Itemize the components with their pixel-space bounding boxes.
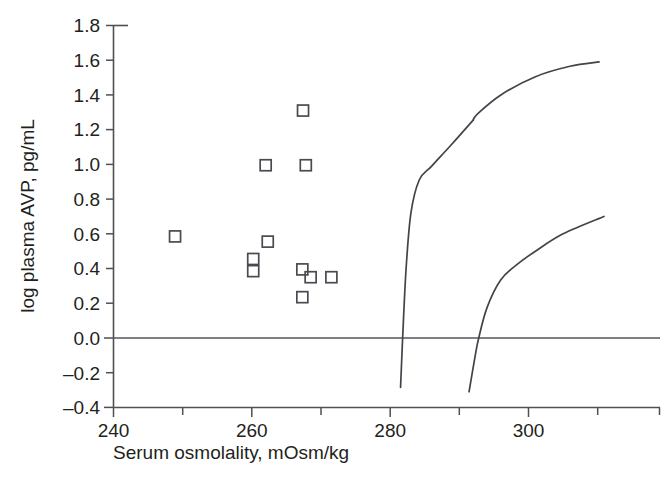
data-point-marker [326, 272, 337, 283]
data-point-marker [262, 236, 273, 247]
y-tick-label: 1.6 [74, 50, 100, 71]
chart-figure: 1.8 1.6 1.4 1.2 1.0 0.8 0.6 0.4 0.2 0.0 … [0, 0, 669, 491]
data-point-markers [170, 105, 337, 303]
y-tick-label: 1.8 [74, 15, 100, 36]
x-axis-tick-labels: 240 260 280 300 [98, 420, 545, 441]
y-tick-label: –0.2 [63, 363, 100, 384]
data-point-marker [297, 264, 308, 275]
y-tick-label: 0.0 [74, 328, 100, 349]
x-axis-ticks [114, 408, 660, 418]
y-tick-label: 1.2 [74, 119, 100, 140]
reference-curve-upper [401, 120, 474, 387]
y-tick-label: 0.6 [74, 224, 100, 245]
data-point-marker [248, 253, 259, 264]
y-tick-label: 1.4 [74, 85, 101, 106]
y-tick-label: –0.4 [63, 397, 100, 418]
scatter-plot: 1.8 1.6 1.4 1.2 1.0 0.8 0.6 0.4 0.2 0.0 … [0, 0, 669, 491]
data-point-marker [305, 272, 316, 283]
x-axis-title: Serum osmolality, mOsm/kg [113, 442, 349, 463]
y-axis-title: log plasma AVP, pg/mL [17, 119, 38, 313]
data-point-marker [170, 231, 181, 242]
x-tick-label: 280 [374, 420, 406, 441]
y-tick-label: 0.2 [74, 293, 100, 314]
data-point-marker [297, 292, 308, 303]
data-point-marker [248, 266, 259, 277]
data-point-marker [298, 105, 309, 116]
axes [114, 25, 661, 408]
x-tick-label: 240 [98, 420, 130, 441]
data-point-marker [260, 160, 271, 171]
x-tick-label: 260 [236, 420, 268, 441]
reference-curve-lower [469, 216, 604, 391]
data-point-marker [300, 160, 311, 171]
y-tick-label: 0.8 [74, 189, 100, 210]
y-axis-tick-labels: 1.8 1.6 1.4 1.2 1.0 0.8 0.6 0.4 0.2 0.0 … [63, 15, 100, 418]
x-tick-label: 300 [513, 420, 545, 441]
reference-curves [401, 62, 604, 392]
reference-curve-upper [473, 62, 599, 120]
y-tick-label: 1.0 [74, 154, 100, 175]
y-tick-label: 0.4 [74, 258, 101, 279]
y-axis-ticks [104, 26, 114, 408]
